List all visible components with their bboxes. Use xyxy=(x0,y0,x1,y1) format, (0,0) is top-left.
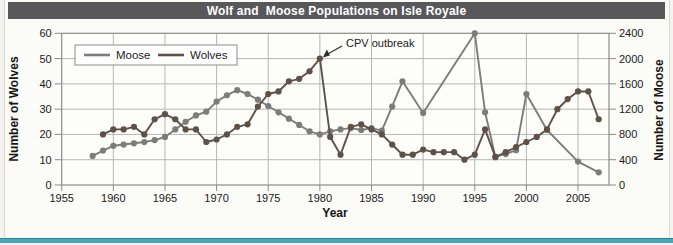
wolves-data-point xyxy=(513,144,519,150)
moose-data-point xyxy=(286,116,292,122)
wolves-data-point xyxy=(503,149,509,155)
moose-data-point xyxy=(275,109,281,115)
page-accent-rule xyxy=(0,238,673,243)
x-tick-label: 1970 xyxy=(204,192,228,204)
moose-data-point xyxy=(472,30,478,36)
wolves-data-point xyxy=(172,116,178,122)
moose-data-point xyxy=(255,97,261,103)
x-tick-label: 1960 xyxy=(101,192,125,204)
y-left-tick-label: 30 xyxy=(39,103,51,115)
y-left-tick-label: 0 xyxy=(46,179,52,191)
moose-data-point xyxy=(306,128,312,134)
x-tick-label: 2005 xyxy=(566,192,590,204)
moose-data-point xyxy=(420,110,426,116)
moose-data-point xyxy=(337,126,343,132)
moose-data-point xyxy=(121,141,127,147)
wolves-data-point xyxy=(244,121,250,127)
wolves-data-point xyxy=(121,126,127,132)
wolves-data-point xyxy=(234,124,240,130)
wolves-data-point xyxy=(482,126,488,132)
wolves-data-point xyxy=(565,96,571,102)
moose-data-point xyxy=(523,91,529,97)
wolves-data-point xyxy=(461,157,467,163)
wolves-data-point xyxy=(327,134,333,140)
moose-data-point xyxy=(296,122,302,128)
legend-wolves-label: Wolves xyxy=(190,49,228,61)
x-tick-label: 1985 xyxy=(359,192,383,204)
wolves-data-point xyxy=(131,124,137,130)
y-left-tick-label: 20 xyxy=(39,128,51,140)
moose-data-point xyxy=(203,109,209,115)
wolves-data-point xyxy=(554,106,560,112)
moose-data-point xyxy=(244,91,250,97)
wolves-data-point xyxy=(430,149,436,155)
moose-data-point xyxy=(110,143,116,149)
y-right-tick-label: 1200 xyxy=(619,103,643,115)
wolves-data-point xyxy=(224,131,230,137)
y-right-tick-label: 800 xyxy=(619,128,637,140)
y-left-tick-label: 40 xyxy=(39,78,51,90)
chart-canvas: 0102030405060040080012001600200024001955… xyxy=(0,0,673,245)
wolves-data-point xyxy=(265,91,271,97)
moose-data-point xyxy=(389,104,395,110)
wolves-data-point xyxy=(523,139,529,145)
wolves-data-point xyxy=(492,154,498,160)
x-tick-label: 2000 xyxy=(514,192,538,204)
moose-data-point xyxy=(162,134,168,140)
moose-data-point xyxy=(482,109,488,115)
page: { "page": { "title": "Wolf and Moose Pop… xyxy=(0,0,673,245)
moose-data-point xyxy=(100,147,106,153)
x-tick-label: 1955 xyxy=(49,192,73,204)
wolves-data-point xyxy=(162,111,168,117)
moose-data-point xyxy=(131,140,137,146)
wolves-data-point xyxy=(575,88,581,94)
wolves-data-point xyxy=(213,136,219,142)
wolves-data-point xyxy=(410,152,416,158)
y-left-tick-label: 60 xyxy=(39,27,51,39)
annotation-cpv-outbreak: CPV outbreak xyxy=(346,37,415,49)
wolves-data-point xyxy=(585,88,591,94)
wolves-data-point xyxy=(368,126,374,132)
moose-data-point xyxy=(224,92,230,98)
wolves-data-point xyxy=(296,76,302,82)
wolves-data-point xyxy=(420,147,426,153)
moose-data-point xyxy=(596,169,602,175)
wolves-data-point xyxy=(203,139,209,145)
wolves-data-point xyxy=(379,131,385,137)
x-tick-label: 1980 xyxy=(308,192,332,204)
wolves-data-point xyxy=(141,131,147,137)
wolves-data-point xyxy=(596,116,602,122)
moose-data-point xyxy=(317,131,323,137)
x-tick-label: 1965 xyxy=(153,192,177,204)
moose-data-point xyxy=(90,153,96,159)
y-right-tick-label: 1600 xyxy=(619,78,643,90)
wolves-data-point xyxy=(472,152,478,158)
moose-data-point xyxy=(265,103,271,109)
wolves-data-point xyxy=(358,121,364,127)
wolves-data-point xyxy=(152,116,158,122)
moose-data-point xyxy=(152,137,158,143)
moose-data-point xyxy=(193,112,199,118)
y-left-tick-label: 10 xyxy=(39,154,51,166)
wolves-data-point xyxy=(337,152,343,158)
moose-data-point xyxy=(575,159,581,165)
wolves-data-point xyxy=(255,104,261,110)
wolves-data-point xyxy=(275,88,281,94)
moose-data-point xyxy=(213,98,219,104)
moose-data-point xyxy=(183,119,189,125)
wolves-data-point xyxy=(451,149,457,155)
y-right-tick-label: 400 xyxy=(619,154,637,166)
y-right-tick-label: 0 xyxy=(619,179,625,191)
moose-data-point xyxy=(399,78,405,84)
y-right-tick-label: 2000 xyxy=(619,53,643,65)
x-tick-label: 1990 xyxy=(411,192,435,204)
wolves-data-point xyxy=(286,78,292,84)
moose-data-point xyxy=(172,126,178,132)
wolves-data-point xyxy=(183,126,189,132)
y-right-tick-label: 2400 xyxy=(619,27,643,39)
wolves-data-point xyxy=(100,131,106,137)
moose-data-point xyxy=(234,87,240,93)
wolves-data-point xyxy=(389,141,395,147)
wolves-data-point xyxy=(534,134,540,140)
x-tick-label: 1995 xyxy=(463,192,487,204)
